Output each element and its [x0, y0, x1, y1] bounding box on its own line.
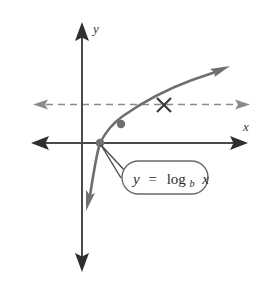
equation-callout: y = log b x [122, 161, 209, 194]
equation-lhs: y [131, 171, 140, 187]
dashed-line-right-arrowhead [235, 100, 250, 110]
leader-stroke-lower [101, 145, 126, 172]
equation-operator: = [148, 171, 156, 187]
equation-base: b [190, 178, 195, 189]
leader-stroke-upper [101, 145, 121, 178]
y-axis-label: y [91, 21, 99, 36]
equation-function: log [167, 171, 187, 187]
equation-argument: x [201, 171, 209, 187]
x-axis-label: x [242, 119, 249, 134]
curve-point-dot [117, 120, 125, 128]
x-axis [31, 136, 248, 150]
y-axis [75, 22, 89, 272]
logarithm-graph-figure: y x y = log b x [0, 0, 267, 283]
figure-canvas: y x y = log b x [0, 0, 267, 283]
x-intercept-dot [96, 139, 104, 147]
dashed-line-left-arrowhead [33, 100, 48, 110]
